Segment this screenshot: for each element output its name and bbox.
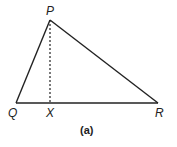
vertex-label-x: X bbox=[45, 106, 55, 120]
vertex-label-q: Q bbox=[8, 106, 17, 120]
vertex-label-p: P bbox=[46, 4, 54, 18]
diagram-canvas: P Q X R (a) bbox=[0, 0, 177, 147]
vertex-label-r: R bbox=[155, 106, 164, 120]
figure-caption: (a) bbox=[80, 124, 94, 136]
edge-pr bbox=[50, 20, 158, 103]
edge-pq bbox=[16, 20, 50, 103]
triangle-diagram: P Q X R (a) bbox=[0, 0, 177, 147]
